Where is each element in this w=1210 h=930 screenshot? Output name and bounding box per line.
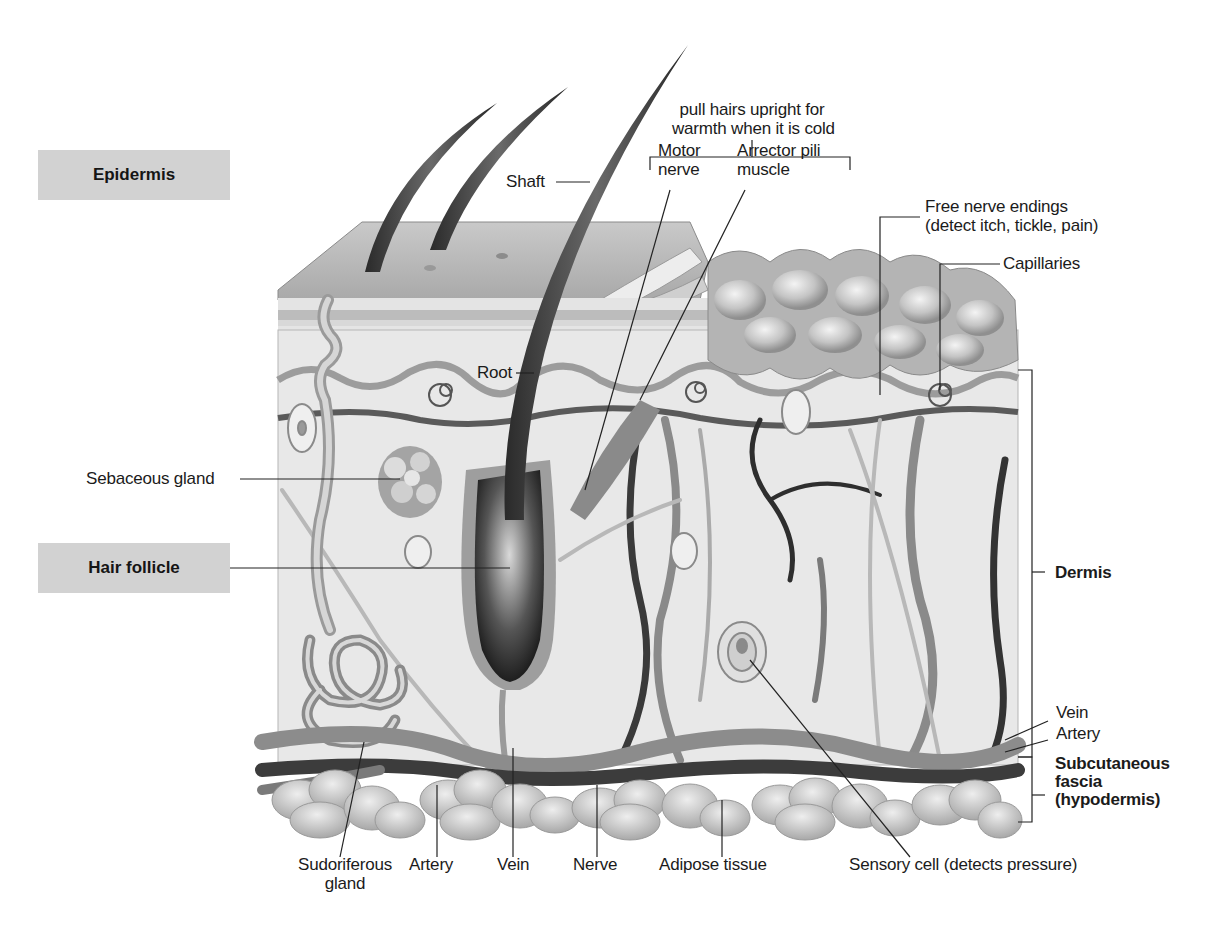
free-nerve-line-2: (detect itch, tickle, pain)	[925, 216, 1098, 235]
shaft-label: Shaft	[506, 172, 545, 191]
arrector-line-1: Arrector pili	[737, 141, 820, 160]
capillaries-label: Capillaries	[1003, 254, 1080, 273]
artery-right-label: Artery	[1056, 724, 1100, 743]
sensory-cell-label: Sensory cell (detects pressure)	[849, 855, 1077, 874]
vein-bottom-label: Vein	[497, 855, 529, 874]
sebaceous-gland-label: Sebaceous gland	[86, 469, 214, 488]
adipose-tissue-label: Adipose tissue	[659, 855, 767, 874]
note-line-1: pull hairs upright for	[672, 100, 832, 119]
nerve-bottom-label: Nerve	[573, 855, 617, 874]
free-nerve-line-1: Free nerve endings	[925, 197, 1098, 216]
arrector-pili-label: Arrector pili muscle	[737, 141, 820, 179]
hypodermis-line-2: fascia	[1055, 773, 1170, 791]
hair-follicle-label: Hair follicle	[88, 558, 180, 578]
motor-nerve-line-2: nerve	[658, 160, 700, 179]
skin-illustration	[0, 0, 1210, 930]
hypodermis-line-3: (hypodermis)	[1055, 791, 1170, 809]
epidermis-label-box: Epidermis	[38, 150, 230, 200]
epidermis-label: Epidermis	[93, 165, 175, 185]
epidermis-bumps	[708, 249, 1018, 379]
skin-diagram: Epidermis Hair follicle pull hairs uprig…	[0, 0, 1210, 930]
dermis-label: Dermis	[1055, 563, 1111, 582]
hypodermis-label: Subcutaneous fascia (hypodermis)	[1055, 755, 1170, 809]
free-nerve-endings-label: Free nerve endings (detect itch, tickle,…	[925, 197, 1098, 235]
motor-nerve-line-1: Motor	[658, 141, 700, 160]
sudoriferous-line-2: gland	[285, 874, 405, 893]
motor-nerve-label: Motor nerve	[658, 141, 700, 179]
vein-right-label: Vein	[1056, 703, 1088, 722]
note-line-2: warmth when it is cold	[672, 119, 832, 138]
hair-follicle-label-box: Hair follicle	[38, 543, 230, 593]
hypodermis-line-1: Subcutaneous	[1055, 755, 1170, 773]
arrector-line-2: muscle	[737, 160, 820, 179]
root-label: Root	[477, 363, 512, 382]
sudoriferous-line-1: Sudoriferous	[285, 855, 405, 874]
arrector-function-note: pull hairs upright for warmth when it is…	[672, 100, 832, 138]
artery-bottom-label: Artery	[409, 855, 453, 874]
sudoriferous-gland-label: Sudoriferous gland	[285, 855, 405, 893]
sebaceous-gland	[378, 446, 442, 518]
